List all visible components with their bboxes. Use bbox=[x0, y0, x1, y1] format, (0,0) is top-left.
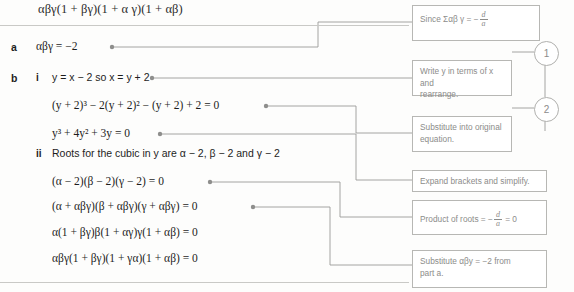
callout-6-line1: Substitute αβy = −2 from bbox=[420, 256, 539, 268]
callout-1-lead: Since Σαβ γ = bbox=[420, 14, 474, 24]
equation-bii2: (α + αβγ)(β + αβγ)(γ + αβγ) = 0 bbox=[52, 200, 198, 212]
equation-bii3: α(1 + βγ)β(1 + αγ)γ(1 + αβ) = 0 bbox=[52, 226, 198, 238]
callout-1-fraction: da bbox=[480, 11, 488, 28]
callout-substitute-abg-from-part-a: Substitute αβy = −2 from part a. bbox=[412, 250, 547, 288]
part-label-b-ii: ii bbox=[36, 148, 42, 159]
callout-2-line1: Write y in terms of x and bbox=[420, 66, 504, 89]
callout-5-minus: − bbox=[488, 214, 493, 224]
callout-substitute-into-original: Substitute into original equation. bbox=[412, 116, 512, 152]
equation-bii1: (α − 2)(β − 2)(γ − 2) = 0 bbox=[52, 175, 164, 187]
callout-since-sum-of-products: Since Σαβ γ = −da bbox=[412, 5, 540, 41]
callout-6-line2: part a. bbox=[420, 268, 539, 280]
equation-bii4: αβγ(1 + βγ)(1 + γα)(1 + αβ) = 0 bbox=[52, 252, 198, 264]
callout-5-tail: = 0 bbox=[503, 214, 517, 224]
callout-5-denominator: a bbox=[494, 219, 502, 228]
callout-3-line1: Substitute into original bbox=[420, 122, 504, 134]
callout-1-numerator: d bbox=[480, 11, 488, 19]
part-label-b: b bbox=[11, 72, 17, 84]
equation-bi1: y = x − 2 so x = y + 2 bbox=[52, 71, 149, 83]
callout-4-line1: Expand brackets and simplify. bbox=[420, 176, 539, 188]
divider-bottom bbox=[0, 282, 409, 283]
step-number-2: 2 bbox=[534, 97, 559, 122]
callout-5-lead: Product of roots = bbox=[420, 214, 488, 224]
callout-1-minus: − bbox=[474, 14, 479, 24]
callout-product-of-roots: Product of roots = −da = 0 bbox=[412, 200, 547, 235]
part-label-a: a bbox=[11, 41, 17, 53]
worked-solution-page: αβγ(1 + βγ)(1 + α γ)(1 + αβ) a αβγ = −2 … bbox=[0, 0, 574, 292]
callout-write-y-in-terms-of-x: Write y in terms of x and rearrange. bbox=[412, 60, 512, 96]
callout-5-fraction: da bbox=[494, 211, 502, 228]
callout-5-numerator: d bbox=[494, 211, 502, 219]
equation-bi3: y³ + 4y² + 3y = 0 bbox=[52, 127, 130, 139]
equation-a1: αβγ = −2 bbox=[36, 40, 77, 52]
equation-bi2: (y + 2)³ − 2(y + 2)² − (y + 2) + 2 = 0 bbox=[52, 99, 219, 111]
callout-1-denominator: a bbox=[480, 19, 488, 28]
step-number-1-label: 1 bbox=[544, 48, 550, 59]
part-label-b-i: i bbox=[36, 72, 39, 83]
callout-expand-brackets: Expand brackets and simplify. bbox=[412, 170, 547, 192]
divider-top bbox=[0, 25, 409, 26]
step-number-1: 1 bbox=[534, 41, 559, 66]
callout-3-line2: equation. bbox=[420, 134, 504, 146]
step-number-2-label: 2 bbox=[544, 104, 550, 115]
statement-bii-roots: Roots for the cubic in y are α − 2, β − … bbox=[52, 147, 280, 159]
top-formula: αβγ(1 + βγ)(1 + α γ)(1 + αβ) bbox=[38, 2, 183, 17]
callout-2-line2: rearrange. bbox=[420, 89, 504, 101]
